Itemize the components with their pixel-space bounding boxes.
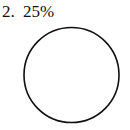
- empty-circle-figure: [0, 0, 130, 130]
